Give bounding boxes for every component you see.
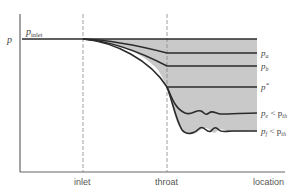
throat-label: throat: [155, 177, 179, 187]
curve-label-pstar: p*: [260, 81, 270, 92]
inlet-label: inlet: [74, 177, 91, 187]
curve-label-pb: pb: [260, 61, 269, 72]
nozzle-pressure-diagram: p pinlet pa pb p* pe < pth pf < pth inle…: [0, 0, 300, 194]
curve-label-pf: pf < pth: [260, 126, 286, 137]
inlet-pressure-label: pinlet: [25, 26, 43, 38]
curve-label-pe: pe < pth: [260, 108, 287, 119]
y-axis-label: p: [6, 34, 12, 45]
curve-label-pa: pa: [260, 48, 269, 59]
x-axis-label: location: [253, 177, 284, 187]
